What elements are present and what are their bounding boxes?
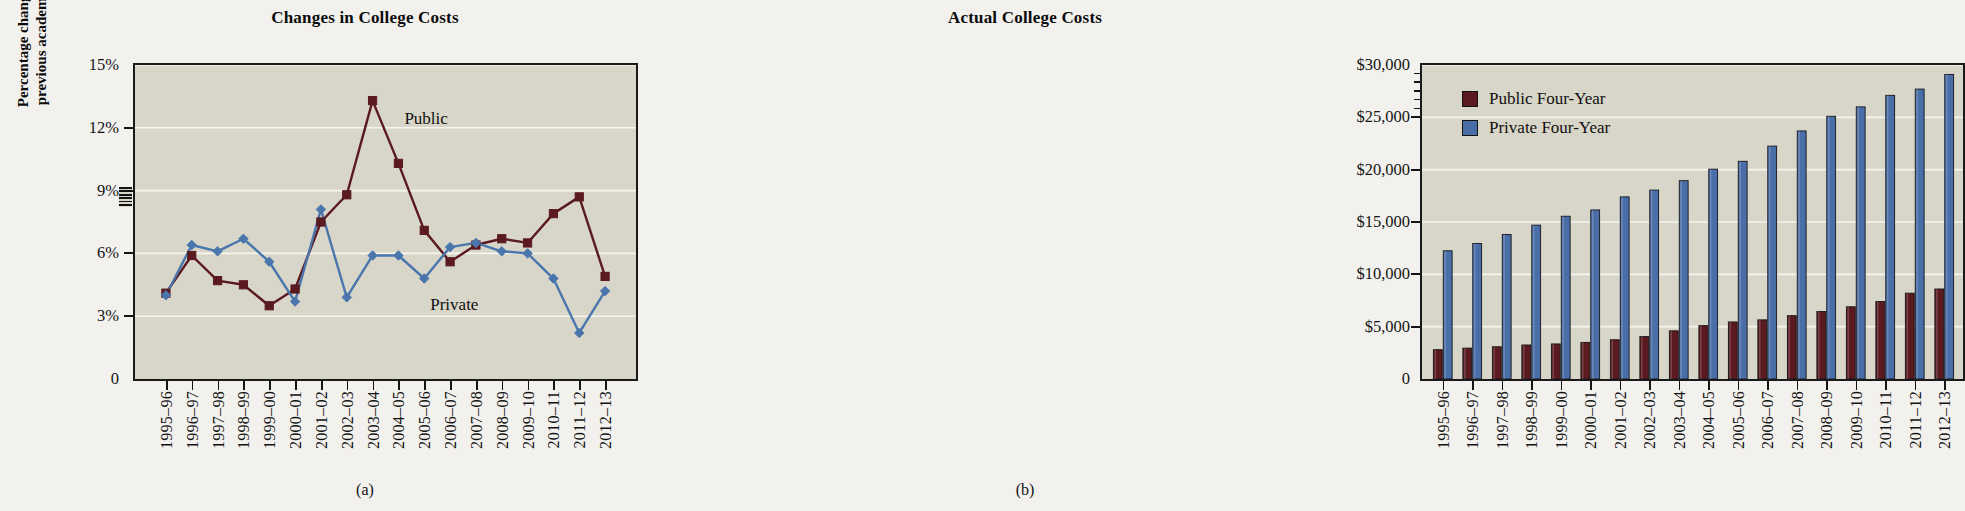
panel-a-x-tick [347, 381, 349, 390]
panel-b-x-tick-label: 1996–97 [1464, 391, 1482, 449]
panel-a-x-tick-label: 2011–12 [571, 391, 589, 449]
panel-a-x-tick [373, 381, 375, 390]
panel-b-x-tick-label: 2002–03 [1641, 391, 1659, 449]
panel-a-x-tick [553, 381, 555, 390]
panel-a-x-tick [295, 381, 297, 390]
panel-a-x-tick-label: 2009–10 [520, 391, 538, 449]
legend-swatch-public [1462, 91, 1478, 107]
panel-a-x-tick-label: 1998–99 [235, 391, 253, 449]
panel-a-x-tick-label: 1999–00 [261, 391, 279, 449]
panel-b-x-tick-label: 1995–96 [1435, 391, 1453, 449]
panel-b-y-tick-label: $25,000 [1310, 107, 1410, 127]
panel-b-x-tick [1944, 381, 1946, 390]
panel-a-x-tick [192, 381, 194, 390]
panel-a-x-tick [502, 381, 504, 390]
panel-b-y-tick [1411, 169, 1420, 171]
panel-a-x-tick [269, 381, 271, 390]
panel-a-x-tick [528, 381, 530, 390]
panel-b-x-tick-label: 2012–13 [1936, 391, 1954, 449]
panel-a-x-tick-label: 2003–04 [365, 391, 383, 449]
panel-b-x-tick-label: 1999–00 [1553, 391, 1571, 449]
panel-a-y-tick [124, 252, 133, 254]
series-annotation-public: Public [404, 109, 447, 129]
panel-b-y-minor-tick [1414, 108, 1420, 110]
panel-a-axis-break-marker [119, 187, 132, 207]
panel-b-x-tick [1502, 381, 1504, 390]
panel-a-x-tick-label: 2012–13 [597, 391, 615, 449]
panel-b-x-tick-label: 1997–98 [1494, 391, 1512, 449]
panel-b-plot-area: Public Four-Year Private Four-Year [1420, 63, 1965, 381]
panel-b-x-tick-label: 2006–07 [1759, 391, 1777, 449]
panel-a-x-tick-label: 2002–03 [339, 391, 357, 449]
panel-b-y-minor-tick [1414, 99, 1420, 101]
panel-b-x-tick-label: 2003–04 [1671, 391, 1689, 449]
panel-b-caption: (b) [670, 481, 1360, 499]
panel-b-x-tick [1856, 381, 1858, 390]
panel-b-x-tick [1797, 381, 1799, 390]
panel-a-x-tick-label: 2000–01 [287, 391, 305, 449]
panel-a-x-tick-label: 2008–09 [494, 391, 512, 449]
panel-b-x-tick [1443, 381, 1445, 390]
panel-a-x-tick-label: 2004–05 [390, 391, 408, 449]
legend-label-public: Public Four-Year [1489, 89, 1605, 109]
panel-b-title: Actual College Costs [670, 8, 1360, 28]
panel-b-legend: Public Four-Year Private Four-Year [1462, 89, 1610, 147]
panel-a-y-tick-label: 3% [0, 306, 119, 326]
panel-a-x-tick [398, 381, 400, 390]
legend-label-private: Private Four-Year [1489, 118, 1610, 138]
panel-b-y-tick-label: $10,000 [1310, 264, 1410, 284]
panel-b-x-tick [1620, 381, 1622, 390]
panel-a-x-tick-label: 2005–06 [416, 391, 434, 449]
panel-a-x-tick [166, 381, 168, 390]
panel-a-x-tick-label: 2006–07 [442, 391, 460, 449]
panel-b-x-tick [1472, 381, 1474, 390]
panel-b-x-tick-label: 2008–09 [1818, 391, 1836, 449]
panel-b-x-tick [1767, 381, 1769, 390]
panel-b-x-tick-label: 2009–10 [1848, 391, 1866, 449]
series-annotation-private: Private [430, 295, 478, 315]
panel-b-y-minor-tick [1414, 81, 1420, 83]
panel-a-x-tick [424, 381, 426, 390]
panel-a-y-tick-label: 0 [0, 369, 119, 389]
panel-a-y-tick-label: 9% [0, 181, 119, 201]
panel-b-x-tick [1708, 381, 1710, 390]
panel-a-x-tick-label: 1995–96 [158, 391, 176, 449]
panel-b-x-tick [1679, 381, 1681, 390]
panel-b-y-tick-label: $30,000 [1310, 55, 1410, 75]
panel-b-y-tick-label: 0 [1310, 369, 1410, 389]
panel-b-x-tick-label: 2010–11 [1877, 391, 1895, 449]
panel-a-x-tick-label: 2010–11 [545, 391, 563, 449]
panel-a-x-tick [476, 381, 478, 390]
y-axis-title-line2: previous academic year [33, 0, 49, 105]
panel-b-x-tick-label: 2004–05 [1700, 391, 1718, 449]
panel-a-line-svg [135, 65, 636, 379]
panel-b-y-tick-label: $5,000 [1310, 317, 1410, 337]
panel-b-x-tick [1561, 381, 1563, 390]
panel-b-y-minor-tick [1414, 73, 1420, 75]
panel-a-y-tick-label: 15% [0, 55, 119, 75]
panel-a-y-tick-label: 12% [0, 118, 119, 138]
panel-a-changes-in-college-costs: Changes in College Costs Percentage chan… [0, 0, 670, 511]
legend-swatch-private [1462, 120, 1478, 136]
panel-b-x-tick [1826, 381, 1828, 390]
panel-b-y-tick-label: $20,000 [1310, 160, 1410, 180]
panel-a-x-tick-label: 2001–02 [313, 391, 331, 449]
panel-b-x-tick-label: 2000–01 [1582, 391, 1600, 449]
panel-b-x-tick-label: 2007–08 [1789, 391, 1807, 449]
panel-a-x-tick [450, 381, 452, 390]
panel-b-y-tick [1411, 116, 1420, 118]
panel-b-y-minor-tick [1414, 90, 1420, 92]
panel-a-caption: (a) [0, 481, 700, 499]
legend-item-private-four-year: Private Four-Year [1462, 118, 1610, 138]
panel-b-x-tick [1531, 381, 1533, 390]
panel-a-x-tick [605, 381, 607, 390]
panel-b-actual-college-costs: Actual College Costs Public Four-Year Pr… [670, 0, 1340, 511]
panel-b-x-tick-label: 2001–02 [1612, 391, 1630, 449]
panel-b-y-tick [1411, 221, 1420, 223]
panel-a-plot-area: PublicPrivate [133, 63, 638, 381]
panel-b-x-tick [1738, 381, 1740, 390]
panel-b-x-tick [1915, 381, 1917, 390]
panel-a-y-tick [124, 315, 133, 317]
panel-a-title: Changes in College Costs [0, 8, 700, 28]
